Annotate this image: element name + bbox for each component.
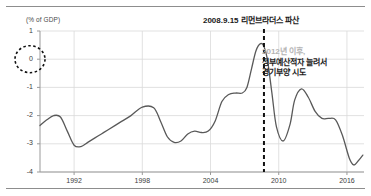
- chart-figure: (% of GDP) 2008.9.15 리먼브라더스 파산 10-1-2-3-…: [0, 0, 371, 196]
- stimulus-note-line-1: 2012년 이후,: [262, 47, 366, 58]
- plot-area: [0, 0, 371, 196]
- x-tick-label: 2010: [262, 177, 296, 184]
- y-tick-label: 1: [15, 27, 33, 34]
- x-tick-label: 2004: [194, 177, 228, 184]
- y-tick-label: -2: [15, 111, 33, 118]
- y-tick-label: 0: [15, 55, 33, 62]
- y-tick-label: -4: [15, 168, 33, 175]
- stimulus-note-line-3: 경기부양 시도: [262, 68, 366, 79]
- x-tick-label: 2016: [330, 177, 364, 184]
- stimulus-note: 2012년 이후, 정부예산적자 늘려서 경기부양 시도: [262, 47, 366, 79]
- x-tick-label: 1998: [125, 177, 159, 184]
- y-tick-label: -3: [15, 139, 33, 146]
- y-tick-label: -1: [15, 83, 33, 90]
- x-tick-label: 1992: [57, 177, 91, 184]
- stimulus-note-line-2: 정부예산적자 늘려서: [262, 58, 366, 69]
